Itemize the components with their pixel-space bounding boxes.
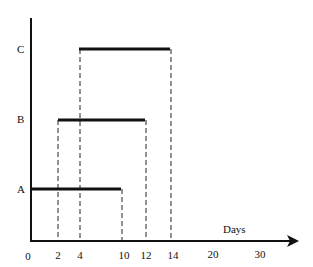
x-tick-10: 10 (119, 249, 130, 261)
gantt-chart (0, 0, 313, 267)
x-tick-12: 12 (141, 249, 152, 261)
x-tick-20: 20 (208, 248, 219, 260)
x-tick-0: 0 (25, 250, 31, 262)
y-label-c: C (17, 43, 24, 55)
x-tick-2: 2 (55, 249, 61, 261)
x-tick-30: 30 (255, 248, 266, 260)
y-label-a: A (17, 183, 25, 195)
y-label-b: B (17, 113, 24, 125)
x-tick-4: 4 (77, 249, 83, 261)
x-axis-title: Days (223, 223, 246, 235)
x-tick-14: 14 (168, 249, 179, 261)
dashed-guides (58, 49, 171, 241)
